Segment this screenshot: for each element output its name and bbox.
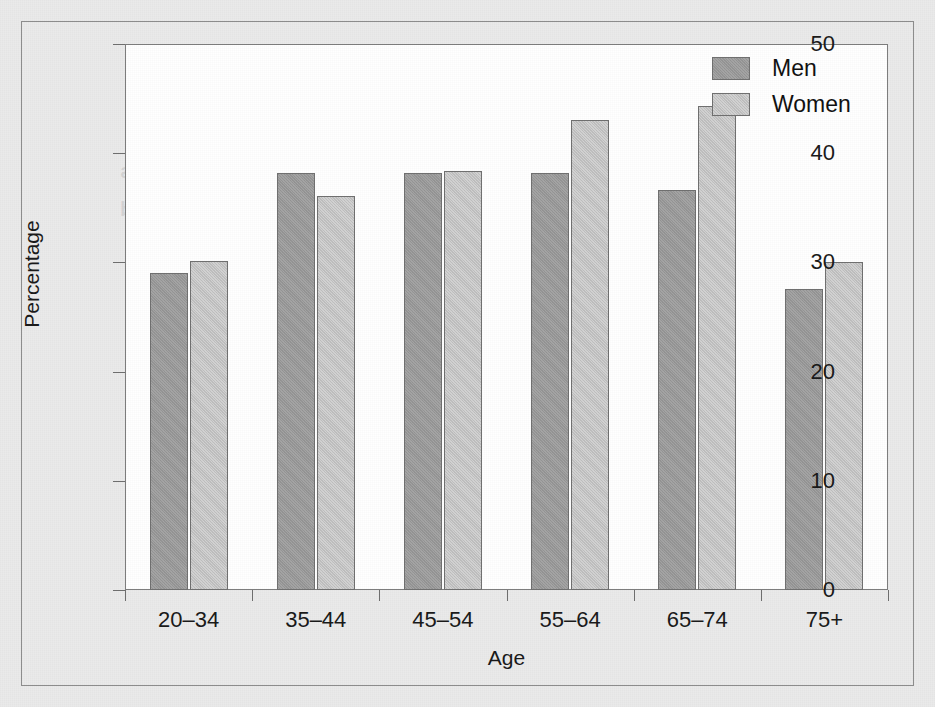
x-axis-tick bbox=[252, 590, 253, 601]
y-axis-tick bbox=[113, 481, 125, 482]
y-axis-title: Percentage bbox=[20, 174, 44, 374]
y-axis-tick bbox=[113, 372, 125, 373]
x-axis-tick bbox=[379, 590, 380, 601]
bar-group bbox=[125, 44, 888, 590]
y-axis-tick bbox=[113, 590, 125, 591]
x-axis-title: Age bbox=[125, 646, 888, 670]
x-axis-tick-label: 75+ bbox=[744, 607, 904, 633]
x-axis-tick bbox=[761, 590, 762, 601]
x-axis-tick bbox=[888, 590, 889, 601]
bar-women-75+ bbox=[825, 262, 863, 590]
y-axis-tick-label: 0 bbox=[775, 579, 835, 601]
y-axis-tick-label: 40 bbox=[775, 142, 835, 164]
y-axis-tick-label: 10 bbox=[775, 470, 835, 492]
legend-label: Men bbox=[772, 57, 817, 80]
y-axis-tick-label: 30 bbox=[775, 251, 835, 273]
legend-item-women: Women bbox=[712, 86, 851, 122]
legend-swatch-men bbox=[712, 57, 750, 80]
bars-layer bbox=[125, 44, 888, 590]
legend-label: Women bbox=[772, 93, 851, 116]
x-axis-tick bbox=[507, 590, 508, 601]
y-axis-tick bbox=[113, 44, 125, 45]
y-axis-tick-label: 20 bbox=[775, 361, 835, 383]
x-axis-tick bbox=[634, 590, 635, 601]
figure-container: Hearing and Disability in Old Ageprevale… bbox=[0, 0, 935, 707]
bar-men-75+ bbox=[785, 289, 823, 590]
legend-item-men: Men bbox=[712, 50, 851, 86]
y-axis-tick bbox=[113, 153, 125, 154]
y-axis-tick bbox=[113, 262, 125, 263]
legend-swatch-women bbox=[712, 93, 750, 116]
legend: MenWomen bbox=[712, 50, 851, 122]
x-axis-tick bbox=[125, 590, 126, 601]
